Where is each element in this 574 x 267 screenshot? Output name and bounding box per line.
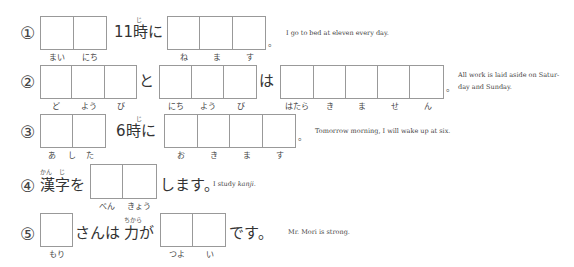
answer-boxes-nichiyoubi[interactable]	[159, 65, 257, 99]
answer-boxes-hatarakimasen[interactable]	[280, 65, 444, 99]
answer-cell[interactable]	[281, 66, 314, 98]
exercise-number: ②	[20, 72, 35, 92]
answer-cell[interactable]	[200, 17, 232, 49]
sentence-text: します。	[160, 176, 219, 194]
reading: よう	[192, 102, 224, 111]
answer-cell[interactable]	[233, 17, 265, 49]
reading: ん	[411, 102, 444, 111]
answer-boxes-nemasu[interactable]	[167, 16, 266, 50]
answer-cell[interactable]	[41, 66, 72, 98]
sentence-text: 11時に	[114, 23, 163, 41]
reading: つよ	[160, 250, 193, 259]
reading: た	[80, 151, 100, 160]
answer-cell[interactable]	[192, 66, 223, 98]
answer-cell[interactable]	[230, 115, 263, 147]
reading: はたら	[280, 102, 313, 111]
furigana: じ	[59, 168, 65, 175]
answer-cell[interactable]	[74, 17, 107, 49]
period: 。	[268, 36, 277, 49]
sentence-text: です。	[229, 224, 273, 242]
english-translation: Mr. Mori is strong.	[288, 227, 350, 238]
sentence-text: 力が	[124, 224, 154, 242]
exercise-number: ①	[20, 23, 35, 43]
answer-cell[interactable]	[73, 115, 105, 147]
period: 。	[446, 81, 455, 94]
english-translation: Tomorrow morning, I will wake up at six.	[315, 126, 450, 137]
answer-cell[interactable]	[224, 66, 256, 98]
reading: ま	[200, 53, 233, 62]
answer-cell[interactable]	[378, 66, 411, 98]
reading: ね	[167, 53, 200, 62]
answer-cell[interactable]	[263, 115, 295, 147]
reading: まい	[40, 53, 73, 62]
english-translation-line-2: day and Sunday.	[458, 82, 512, 93]
reading: し	[62, 151, 82, 160]
reading: よう	[72, 102, 105, 111]
reading: び	[224, 102, 257, 111]
answer-cell[interactable]	[165, 115, 198, 147]
reading: せ	[378, 102, 411, 111]
reading: にち	[159, 102, 192, 111]
reading: お	[164, 151, 197, 160]
exercise-number: ③	[20, 122, 35, 142]
answer-cell[interactable]	[123, 165, 156, 198]
answer-cell[interactable]	[105, 66, 136, 98]
exercise-number: ④	[20, 176, 35, 196]
reading: き	[313, 102, 346, 111]
answer-cell[interactable]	[193, 214, 225, 246]
furigana: かん	[40, 168, 52, 175]
answer-cell[interactable]	[41, 17, 74, 49]
answer-boxes-benkyou[interactable]	[90, 164, 157, 199]
english-translation: I study kanji.	[213, 179, 256, 190]
reading: ま	[230, 151, 263, 160]
reading: きょう	[122, 202, 156, 211]
answer-cell[interactable]	[314, 66, 347, 98]
reading: にち	[73, 53, 106, 62]
reading: ま	[346, 102, 378, 111]
sentence-text: は	[259, 72, 274, 90]
answer-cell[interactable]	[160, 66, 192, 98]
answer-boxes-ashita[interactable]	[40, 114, 106, 148]
reading: す	[263, 151, 296, 160]
reading: き	[197, 151, 230, 160]
answer-cell[interactable]	[41, 214, 72, 246]
english-translation: I go to bed at eleven every day.	[286, 28, 389, 39]
answer-cell[interactable]	[91, 165, 123, 198]
answer-boxes-mori[interactable]	[40, 213, 73, 247]
english-translation-line-1: All work is laid aside on Satur-	[458, 70, 559, 81]
sentence-text: 漢字を	[40, 176, 85, 194]
answer-cell[interactable]	[410, 66, 443, 98]
answer-boxes-okimasu[interactable]	[164, 114, 296, 148]
furigana: じ	[136, 115, 142, 122]
answer-cell[interactable]	[346, 66, 378, 98]
answer-boxes-doyoubi[interactable]	[40, 65, 137, 99]
reading: あ	[42, 151, 62, 160]
period: 。	[298, 130, 307, 143]
reading: い	[193, 250, 226, 259]
reading: もり	[40, 250, 73, 259]
answer-boxes-tsuyoi[interactable]	[160, 213, 226, 247]
answer-cell[interactable]	[198, 115, 231, 147]
sentence-text: 6時に	[116, 122, 156, 140]
reading: ど	[40, 102, 72, 111]
sentence-text: さんは	[75, 224, 120, 242]
answer-cell[interactable]	[41, 115, 73, 147]
answer-cell[interactable]	[161, 214, 193, 246]
exercise-number: ⑤	[20, 224, 35, 244]
furigana: じ	[136, 16, 142, 23]
answer-boxes-mainichi[interactable]	[40, 16, 107, 50]
reading: す	[233, 53, 266, 62]
sentence-text: と	[139, 72, 154, 90]
furigana: ちから	[124, 216, 142, 223]
reading: び	[105, 102, 137, 111]
reading: べん	[92, 202, 122, 211]
answer-cell[interactable]	[168, 17, 200, 49]
answer-cell[interactable]	[72, 66, 104, 98]
